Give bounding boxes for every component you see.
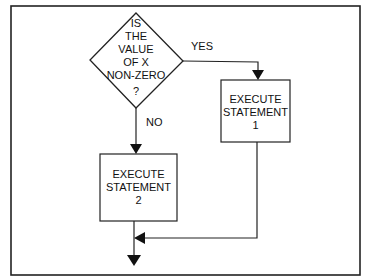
statement-2-line: 2 <box>100 194 177 207</box>
flowchart-canvas <box>0 0 367 279</box>
no-arrowhead-icon <box>130 144 142 154</box>
decision-line: THE <box>96 30 176 43</box>
outer-frame <box>11 6 360 275</box>
no-label: NO <box>146 116 163 128</box>
decision-line: ? <box>96 85 176 98</box>
statement-2-text: EXECUTE STATEMENT 2 <box>100 168 177 207</box>
yes-label: YES <box>191 40 213 52</box>
statement-1-text: EXECUTE STATEMENT 1 <box>221 93 290 132</box>
decision-line: OF X <box>96 56 176 69</box>
decision-line: VALUE <box>96 43 176 56</box>
decision-line: IS <box>96 17 176 30</box>
exit-arrowhead-icon <box>127 255 141 266</box>
statement-1-line: EXECUTE <box>221 93 290 106</box>
statement-2-line: STATEMENT <box>100 181 177 194</box>
statement-2-line: EXECUTE <box>100 168 177 181</box>
yes-arrowhead-icon <box>252 70 264 80</box>
decision-text: IS THE VALUE OF X NON-ZERO ? <box>96 17 176 98</box>
statement-1-line: STATEMENT <box>221 106 290 119</box>
decision-line: NON-ZERO <box>96 69 176 82</box>
yes-connector <box>183 61 258 72</box>
statement-1-line: 1 <box>221 119 290 132</box>
merge-arrowhead-icon <box>134 232 145 244</box>
